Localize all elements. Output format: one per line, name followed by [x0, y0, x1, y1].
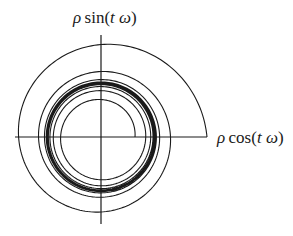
spiral-phase-diagram [0, 0, 293, 236]
x-axis-label: ρ cos(t ω) [217, 129, 284, 146]
y-axis-label: ρ sin(t ω) [73, 9, 137, 26]
